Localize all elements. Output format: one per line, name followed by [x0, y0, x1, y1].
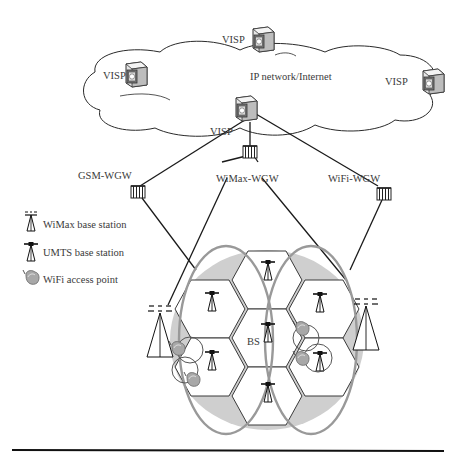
network-architecture-diagram: IP network/Internet VISP VISP VISP VISP …	[0, 0, 458, 460]
gateway-wimax-wgw: WiMax-WGW	[216, 146, 279, 184]
ip-network-cloud: IP network/Internet	[84, 41, 436, 136]
bottom-rule-divider	[12, 450, 444, 451]
umts-base-station-icon	[24, 242, 38, 261]
router-icon	[253, 27, 274, 52]
legend-label: UMTS base station	[43, 247, 125, 258]
gateway-label: WiFi-WGW	[328, 173, 380, 184]
gateway-icon	[377, 188, 391, 200]
legend-item-wifi: WiFi access point	[23, 270, 118, 285]
gateway-wifi-wgw: WiFi-WGW	[328, 173, 391, 200]
wimax-base-station-icon	[25, 212, 37, 231]
gateway-icon	[131, 186, 145, 198]
router-icon	[126, 62, 147, 87]
legend-label: WiMax base station	[43, 219, 127, 230]
wimax-base-station-icon	[147, 306, 173, 357]
cloud-label: IP network/Internet	[250, 71, 332, 82]
router-icon	[423, 69, 444, 94]
visp-label: VISP	[222, 34, 245, 45]
link-gsm-ran	[142, 198, 196, 270]
legend-item-wimax: WiMax base station	[25, 212, 127, 231]
link-wimax-a	[222, 156, 246, 162]
legend: WiMax base station UMTS base station WiF…	[23, 212, 127, 285]
gateway-label: GSM-WGW	[78, 170, 132, 181]
gateway-gsm-wgw: GSM-WGW	[78, 170, 145, 198]
gateway-label: WiMax-WGW	[216, 173, 279, 184]
link-wifi-ran	[350, 200, 382, 270]
legend-label: WiFi access point	[43, 274, 118, 285]
visp-label: VISP	[210, 126, 233, 137]
bs-label: BS	[247, 336, 260, 347]
legend-item-umts: UMTS base station	[24, 242, 125, 261]
visp-label: VISP	[385, 76, 408, 87]
visp-label: VISP	[103, 70, 126, 81]
wifi-access-point-icon	[23, 270, 39, 284]
gateway-icon	[243, 146, 257, 158]
router-icon	[236, 96, 257, 121]
